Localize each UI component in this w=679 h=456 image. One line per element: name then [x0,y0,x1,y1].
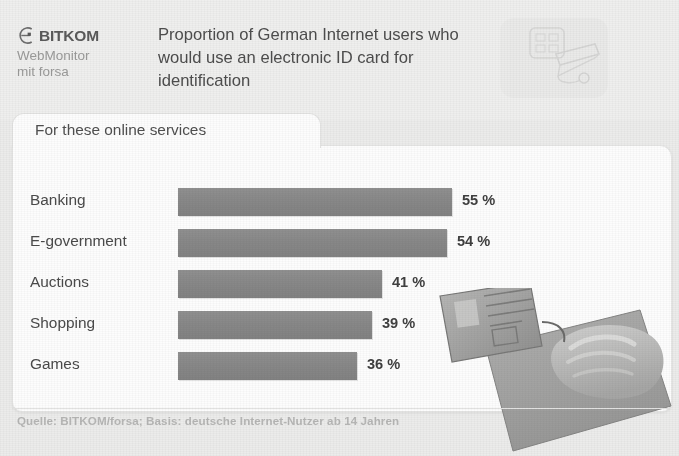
footer-divider [12,408,670,409]
bar-shopping [178,311,372,339]
bar-banking [178,188,452,216]
brand-logo: BITKOM WebMonitor mit forsa [17,26,135,81]
tab-label: For these online services [35,121,206,139]
bar-value-auctions: 41 % [392,274,425,290]
source-note: Quelle: BITKOM/forsa; Basis: deutsche In… [17,414,399,427]
bar-value-games: 36 % [367,356,400,372]
bar-value-egovernment: 54 % [457,233,490,249]
bar-label-egovernment: E-government [30,232,127,250]
bar-egovernment [178,229,447,257]
bitkom-arc-icon [17,26,36,45]
table-row: E-government 54 % [12,229,670,259]
bar-games [178,352,357,380]
header: BITKOM WebMonitor mit forsa Proportion o… [0,0,679,120]
brand-name: BITKOM [39,27,99,45]
hand-on-mouse-with-id-card-photo [438,288,679,456]
brand-logo-top: BITKOM [17,26,135,45]
bar-value-banking: 55 % [462,192,495,208]
brand-subtitle-line1: WebMonitor [17,48,135,64]
table-row: Banking 55 % [12,188,670,218]
page-title: Proportion of German Internet users who … [158,24,488,93]
bar-label-auctions: Auctions [30,273,89,291]
tab-online-services[interactable]: For these online services [12,113,321,148]
bar-label-banking: Banking [30,191,86,209]
infographic-root: BITKOM WebMonitor mit forsa Proportion o… [0,0,679,456]
brand-subtitle: WebMonitor mit forsa [17,48,135,81]
bar-auctions [178,270,382,298]
brand-subtitle-line2: mit forsa [17,64,135,80]
bar-label-games: Games [30,355,80,373]
bar-label-shopping: Shopping [30,314,95,332]
id-card-reader-icon [500,18,608,98]
bar-value-shopping: 39 % [382,315,415,331]
